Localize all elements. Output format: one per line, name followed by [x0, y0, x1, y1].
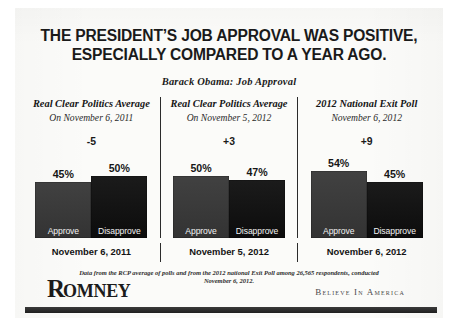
panel-2-approve-bar: Approve — [173, 176, 229, 238]
title-line-1: THE PRESIDENT’S JOB APPROVAL WAS POSITIV… — [33, 26, 425, 45]
panel-2-date: November 5, 2012 — [160, 243, 298, 262]
panel-2-bars: 50% Approve 47% Disapprove — [161, 160, 298, 238]
panel-3-header: 2012 National Exit Poll — [298, 97, 435, 110]
logo-wordmark: OMNEY — [63, 280, 131, 302]
title-line-2: ESPECIALLY COMPARED TO A YEAR AGO. — [33, 45, 425, 64]
panel-3-approve-column: 54% Approve — [311, 160, 367, 238]
panel-3-approve-value: 54% — [311, 157, 367, 169]
panel-2-net-approval: +3 — [161, 136, 298, 150]
panel-2-header: Real Clear Politics Average — [161, 97, 298, 110]
panel-3-disapprove-column: 45% Disapprove — [367, 160, 423, 238]
panel-1-approve-value: 45% — [35, 168, 91, 180]
chart-panel-1: Real Clear Politics Average On November … — [23, 97, 160, 238]
panel-2-disapprove-label: Disapprove — [229, 226, 285, 236]
panel-2-disapprove-column: 47% Disapprove — [229, 160, 285, 238]
chart-panel-3: 2012 National Exit Poll November 6, 2012… — [297, 97, 435, 238]
romney-logo: R OMNEY — [47, 278, 131, 302]
panel-1-approve-column: 45% Approve — [35, 160, 91, 238]
panel-date-row: November 6, 2011 November 5, 2012 Novemb… — [15, 243, 443, 262]
panel-3-disapprove-bar: Disapprove — [367, 182, 423, 238]
panel-3-subheader: November 6, 2012 — [298, 111, 435, 124]
slide-title: THE PRESIDENT’S JOB APPROVAL WAS POSITIV… — [15, 26, 443, 64]
panel-1-approve-label: Approve — [35, 226, 91, 236]
campaign-tagline: Believe In America — [315, 287, 405, 297]
panel-1-disapprove-bar: Disapprove — [91, 176, 147, 238]
panel-3-bars: 54% Approve 45% Disapprove — [298, 160, 435, 238]
logo-initial: R — [47, 278, 64, 300]
chart-subtitle: Barack Obama: Job Approval — [15, 76, 443, 87]
chart-panels: Real Clear Politics Average On November … — [15, 97, 443, 238]
panel-2-approve-value: 50% — [173, 162, 229, 174]
panel-3-net-approval: +9 — [298, 136, 435, 150]
panel-2-subheader: On November 5, 2012 — [161, 111, 298, 124]
panel-1-disapprove-column: 50% Disapprove — [91, 160, 147, 238]
panel-1-subheader: On November 6, 2011 — [23, 111, 160, 124]
panel-1-bars: 45% Approve 50% Disapprove — [23, 160, 160, 238]
panel-1-disapprove-label: Disapprove — [91, 226, 147, 236]
panel-1-header: Real Clear Politics Average — [23, 97, 160, 110]
panel-3-disapprove-value: 45% — [367, 168, 423, 180]
panel-1-net-approval: -5 — [23, 136, 160, 150]
panel-1-date: November 6, 2011 — [23, 243, 160, 262]
footer-rule — [25, 307, 437, 313]
slide-footer: R OMNEY Believe In America — [15, 276, 443, 318]
slide-canvas: THE PRESIDENT’S JOB APPROVAL WAS POSITIV… — [15, 8, 443, 318]
panel-3-date: November 6, 2012 — [297, 243, 435, 262]
panel-1-approve-bar: Approve — [35, 182, 91, 238]
panel-3-disapprove-label: Disapprove — [367, 226, 423, 236]
panel-2-approve-label: Approve — [173, 226, 229, 236]
panel-2-disapprove-bar: Disapprove — [229, 180, 285, 238]
panel-2-approve-column: 50% Approve — [173, 160, 229, 238]
panel-3-approve-bar: Approve — [311, 171, 367, 238]
panel-3-approve-label: Approve — [311, 226, 367, 236]
chart-panel-2: Real Clear Politics Average On November … — [160, 97, 298, 238]
panel-2-disapprove-value: 47% — [229, 166, 285, 178]
panel-1-disapprove-value: 50% — [91, 162, 147, 174]
